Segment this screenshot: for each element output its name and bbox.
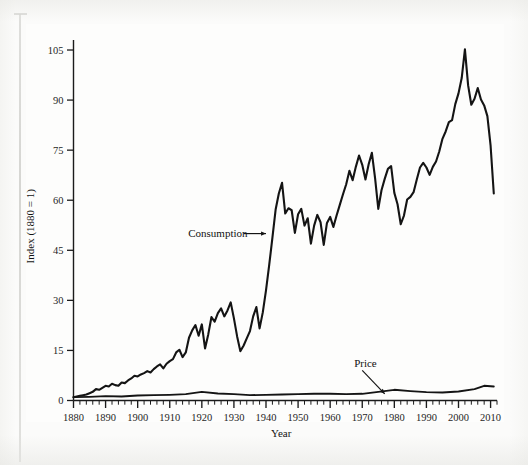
x-tick-label: 1980: [384, 412, 405, 423]
x-tick-label: 1960: [320, 412, 341, 423]
y-tick-label: 90: [53, 95, 64, 106]
x-tick-label: 1890: [95, 412, 116, 423]
figure-container: 0153045607590105188018901900191019201930…: [0, 0, 528, 465]
annotation-arrow-head: [261, 231, 266, 235]
x-tick-label: 1990: [416, 412, 437, 423]
chart-annotations: ConsumptionPrice: [188, 227, 384, 394]
y-tick-label: 105: [48, 45, 64, 56]
y-tick-label: 0: [58, 395, 63, 406]
x-tick-label: 2010: [480, 412, 501, 423]
x-tick-label: 1930: [223, 412, 244, 423]
y-tick-label: 60: [53, 195, 64, 206]
annotation-label: Price: [354, 357, 377, 369]
y-tick-label: 30: [53, 295, 64, 306]
x-tick-label: 1940: [256, 412, 277, 423]
axes: 0153045607590105188018901900191019201930…: [48, 40, 501, 423]
x-tick-label: 2000: [448, 412, 469, 423]
x-tick-label: 1900: [127, 412, 148, 423]
y-tick-label: 45: [53, 245, 64, 256]
x-tick-label: 1970: [352, 412, 373, 423]
series-line-price: [74, 386, 494, 397]
line-chart: 0153045607590105188018901900191019201930…: [0, 0, 528, 465]
x-tick-label: 1880: [63, 412, 84, 423]
y-tick-label: 15: [53, 345, 64, 356]
data-series: [74, 49, 494, 397]
series-line-consumption: [74, 49, 494, 397]
y-tick-label: 75: [53, 145, 64, 156]
x-tick-label: 1910: [159, 412, 180, 423]
x-tick-label: 1950: [288, 412, 309, 423]
y-axis-title: Index (1880 = 1): [24, 189, 37, 264]
x-tick-label: 1920: [191, 412, 212, 423]
annotation-label: Consumption: [188, 227, 248, 239]
x-axis-title: Year: [271, 427, 292, 439]
